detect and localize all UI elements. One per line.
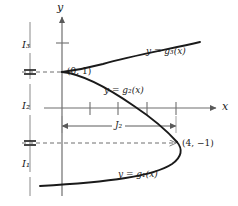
point-label-0-1: (0, 1) (67, 67, 91, 76)
curve-g1 (40, 142, 181, 186)
curve-label-g1: y = g₁(x) (118, 170, 158, 179)
interval-label-I2: I₂ (22, 101, 30, 111)
curve-g2 (62, 72, 177, 142)
interval-label-I3: I₃ (22, 40, 30, 50)
curve-label-g2: y = g₂(x) (104, 86, 144, 95)
figure-canvas: y x I₃ I₂ I₁ (0, 1) (4, −1) y = g₃(x) y … (0, 0, 238, 206)
y-axis-label: y (57, 2, 63, 13)
point-label-4-neg1: (4, −1) (182, 139, 214, 148)
interval-label-I1: I₁ (22, 159, 30, 169)
curve-label-g3: y = g₃(x) (146, 47, 186, 56)
x-axis-label: x (222, 101, 228, 112)
segment-label-J2: J₂ (112, 121, 125, 130)
